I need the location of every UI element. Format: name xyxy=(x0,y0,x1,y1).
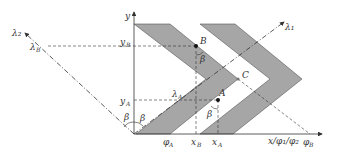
lambda1-label: λ₁ xyxy=(284,22,294,32)
lambda2-axis xyxy=(25,33,134,134)
y-axis-label: y xyxy=(124,11,131,21)
yA-tick-label: y A xyxy=(119,96,131,107)
x-axis-label: x/φ₁/φ₂ xyxy=(268,136,299,146)
svg-text:y: y xyxy=(119,37,126,47)
lambda2-label: λ₂ xyxy=(11,28,22,38)
beta-angle-right: β xyxy=(139,113,145,123)
point-B xyxy=(194,44,198,48)
svg-text:x: x xyxy=(212,137,217,147)
point-C xyxy=(236,77,239,80)
svg-text:λ: λ xyxy=(29,42,36,52)
beta-angle-A: β xyxy=(206,109,212,119)
yB-tick-label: y B xyxy=(119,37,131,48)
point-C-label: C xyxy=(242,70,249,80)
svg-text:A: A xyxy=(217,141,223,148)
xB-tick-label: x B xyxy=(191,137,202,148)
point-A xyxy=(216,98,220,102)
lambdaA-tick-label: λ A xyxy=(171,89,183,100)
svg-text:y: y xyxy=(119,96,126,106)
beta-angle-left: β xyxy=(123,112,129,122)
point-A-label: A xyxy=(218,88,226,98)
point-B-label: B xyxy=(199,36,207,46)
svg-text:x: x xyxy=(191,137,196,147)
xA-tick-label: x A xyxy=(212,137,223,148)
svg-text:λ: λ xyxy=(171,89,178,99)
svg-text:B: B xyxy=(308,141,314,148)
svg-text:B: B xyxy=(35,46,41,53)
svg-text:B: B xyxy=(196,141,202,148)
svg-text:A: A xyxy=(177,93,183,100)
lambdaB-tick-label: λ B xyxy=(29,42,41,53)
beta-angle-B: β xyxy=(199,54,205,64)
svg-text:B: B xyxy=(125,41,131,48)
svg-text:A: A xyxy=(125,100,131,107)
phiA-tick-label: φ A xyxy=(163,137,174,148)
phiB-tick-label: φ B xyxy=(303,137,314,148)
svg-text:A: A xyxy=(168,141,174,148)
chevron-diagram: y x/φ₁/φ₂ λ₁ λ₂ B A C y B y A λ B λ A φ … xyxy=(0,0,358,154)
